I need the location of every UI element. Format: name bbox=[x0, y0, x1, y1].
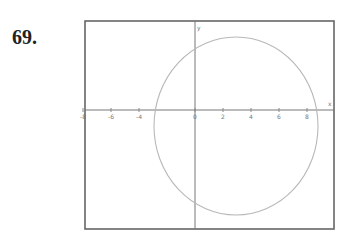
x-tick-label: 4 bbox=[249, 113, 253, 120]
x-tick-label: 0 bbox=[193, 113, 197, 120]
x-tick-label: -6 bbox=[108, 113, 114, 120]
x-tick-label: -4 bbox=[136, 113, 142, 120]
x-tick-label: 8 bbox=[305, 113, 309, 120]
x-tick-label: 6 bbox=[277, 113, 281, 120]
x-axis-label: x bbox=[328, 100, 332, 107]
x-tick-label: 2 bbox=[221, 113, 225, 120]
y-axis-label: y bbox=[197, 24, 201, 32]
graph-plot: -8-6-402468 y x bbox=[0, 0, 355, 234]
x-tick-label: -8 bbox=[80, 113, 86, 120]
plot-frame bbox=[85, 21, 334, 229]
